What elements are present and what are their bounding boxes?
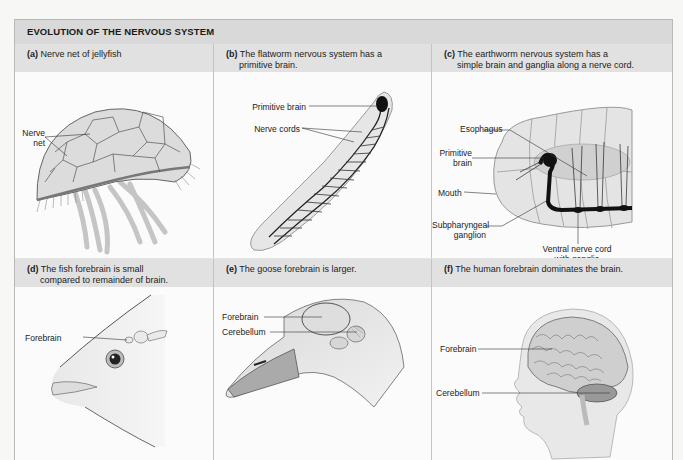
panel-letter: (a) — [27, 49, 38, 59]
label-forebrain: Forebrain — [25, 333, 61, 343]
flatworm-illustration — [214, 72, 431, 258]
label-line: net — [19, 138, 45, 148]
panel-letter: (f) — [444, 264, 453, 274]
caption-bar: (f) The human forebrain dominates the br… — [432, 259, 672, 287]
panel-letter: (d) — [27, 264, 39, 274]
fish-illustration — [15, 287, 213, 460]
label-cerebellum: Cerebellum — [436, 388, 479, 398]
human-head-illustration — [432, 287, 672, 460]
label-subpharyngeal-ganglion: Subpharyngeal ganglion — [432, 220, 486, 240]
label-line: brain — [432, 158, 472, 168]
panel-letter: (e) — [226, 264, 237, 274]
caption-text: The flatworm nervous system has a — [240, 49, 382, 59]
caption-bar: (e) The goose forebrain is larger. — [214, 259, 431, 287]
panel-goose: (e) The goose forebrain is larger. Foreb… — [214, 259, 431, 460]
label-line: Primitive — [432, 148, 472, 158]
label-primitive-brain: Primitive brain — [432, 148, 472, 168]
label-esophagus: Esophagus — [460, 124, 503, 134]
caption-bar: (b) The flatworm nervous system has a pr… — [214, 44, 431, 72]
caption-text: The goose forebrain is larger. — [239, 264, 356, 274]
label-mouth: Mouth — [438, 188, 462, 198]
panel-letter: (b) — [226, 49, 238, 59]
label-forebrain: Forebrain — [222, 312, 258, 322]
caption: (d) The fish forebrain is small compared… — [27, 264, 168, 286]
label-line: Subpharyngeal — [432, 220, 486, 230]
caption: (b) The flatworm nervous system has a pr… — [226, 49, 382, 71]
label-line: Ventral nerve cord — [532, 244, 622, 254]
caption: (f) The human forebrain dominates the br… — [444, 264, 623, 275]
caption-text: The fish forebrain is small — [41, 264, 144, 274]
jellyfish-illustration — [15, 72, 213, 258]
caption: (a) Nerve net of jellyfish — [27, 49, 122, 60]
caption-text: The earthworm nervous system has a — [457, 49, 608, 59]
row-divider — [15, 258, 672, 259]
panel-earthworm: (c) The earthworm nervous system has a s… — [432, 44, 672, 258]
panel-human: (f) The human forebrain dominates the br… — [432, 259, 672, 460]
caption-text: The human forebrain dominates the brain. — [455, 264, 623, 274]
panel-flatworm: (b) The flatworm nervous system has a pr… — [214, 44, 431, 258]
panel-jellyfish: (a) Nerve net of jellyfish Nerve net — [15, 44, 213, 258]
caption: (c) The earthworm nervous system has a s… — [444, 49, 634, 71]
caption-bar: (a) Nerve net of jellyfish — [15, 44, 213, 72]
label-nerve-cords: Nerve cords — [224, 124, 300, 134]
caption-bar: (d) The fish forebrain is small compared… — [15, 259, 213, 287]
label-cerebellum: Cerebellum — [222, 327, 265, 337]
caption-text: primitive brain. — [226, 60, 382, 71]
panel-letter: (c) — [444, 49, 455, 59]
label-line: ganglion — [432, 230, 486, 240]
figure-frame: EVOLUTION OF THE NERVOUS SYSTEM (a) Nerv… — [14, 19, 673, 460]
label-line: Nerve — [19, 128, 45, 138]
label-primitive-brain: Primitive brain — [224, 102, 306, 112]
title-bar: EVOLUTION OF THE NERVOUS SYSTEM — [15, 20, 672, 44]
caption-text: simple brain and ganglia along a nerve c… — [444, 60, 634, 71]
label-forebrain: Forebrain — [440, 344, 476, 354]
caption-text: Nerve net of jellyfish — [41, 49, 122, 59]
figure-title: EVOLUTION OF THE NERVOUS SYSTEM — [27, 26, 214, 37]
caption: (e) The goose forebrain is larger. — [226, 264, 356, 275]
panel-fish: (d) The fish forebrain is small compared… — [15, 259, 213, 460]
caption-bar: (c) The earthworm nervous system has a s… — [432, 44, 672, 72]
caption-text: compared to remainder of brain. — [27, 275, 168, 286]
label-nerve-net: Nerve net — [19, 128, 45, 148]
